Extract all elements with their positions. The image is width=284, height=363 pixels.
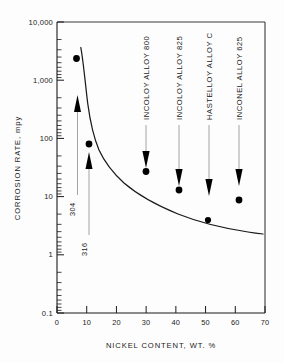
y-axis-title: CORROSION RATE, mpy xyxy=(13,116,22,220)
data-point-incoloy-800 xyxy=(143,168,150,175)
annotation-incoloy-825: INCOLOY ALLOY 825 xyxy=(175,36,184,186)
x-tick-label: 30 xyxy=(142,318,151,327)
arrow-down-icon xyxy=(142,151,149,168)
x-tick-label: 50 xyxy=(201,318,210,327)
y-tick-labels: 10,000 1,000 100 10 1 0.1 xyxy=(29,18,53,318)
data-point-incoloy-825 xyxy=(176,187,183,194)
y-axis-major-ticks xyxy=(57,22,64,313)
y-tick-label: 10,000 xyxy=(29,18,53,27)
annotation-label-incoloy-825: INCOLOY ALLOY 825 xyxy=(175,36,184,120)
arrow-up-icon xyxy=(86,152,93,169)
annotation-incoloy-800: INCOLOY ALLOY 800 xyxy=(142,36,151,168)
arrow-down-icon xyxy=(235,169,242,186)
annotation-316: 316 xyxy=(80,152,93,256)
x-axis-ticks xyxy=(57,306,265,313)
x-tick-label: 10 xyxy=(82,318,91,327)
x-axis-title: NICKEL CONTENT, WT. % xyxy=(106,341,216,350)
annotation-label-incoloy-800: INCOLOY ALLOY 800 xyxy=(142,36,151,120)
x-tick-label: 40 xyxy=(172,318,181,327)
arrow-down-icon xyxy=(175,169,182,186)
arrow-down-icon xyxy=(205,179,212,196)
x-tick-label: 70 xyxy=(261,318,270,327)
y-tick-label: 0.1 xyxy=(42,309,53,318)
y-tick-label: 1,000 xyxy=(33,76,53,85)
annotation-304: 304 xyxy=(68,95,81,216)
y-tick-label: 10 xyxy=(44,192,53,201)
data-point-304 xyxy=(73,55,80,62)
data-markers xyxy=(73,55,242,223)
data-point-hastelloy-c xyxy=(205,217,211,223)
annotation-label-hastelloy-c: HASTELLOY ALLOY C xyxy=(205,32,214,120)
corrosion-rate-chart-figure: 10,000 1,000 100 10 1 0.1 0 10 20 30 40 … xyxy=(0,0,284,363)
x-tick-labels: 0 10 20 30 40 50 60 70 xyxy=(55,318,269,327)
x-tick-label: 0 xyxy=(55,318,59,327)
chart-svg: 10,000 1,000 100 10 1 0.1 0 10 20 30 40 … xyxy=(0,0,284,363)
arrow-up-icon xyxy=(74,95,81,112)
annotation-label-304: 304 xyxy=(68,202,77,216)
annotation-label-316: 316 xyxy=(80,242,89,256)
annotation-label-inconel-625: INCONEL ALLOY 625 xyxy=(235,36,244,120)
data-point-316 xyxy=(86,141,93,148)
y-tick-label: 100 xyxy=(40,134,53,143)
y-tick-label: 1 xyxy=(49,250,53,259)
x-tick-label: 60 xyxy=(231,318,240,327)
annotation-hastelloy-c: HASTELLOY ALLOY C xyxy=(205,32,214,196)
x-tick-label: 20 xyxy=(112,318,121,327)
annotation-inconel-625: INCONEL ALLOY 625 xyxy=(235,36,244,186)
data-point-inconel-625 xyxy=(236,197,243,204)
